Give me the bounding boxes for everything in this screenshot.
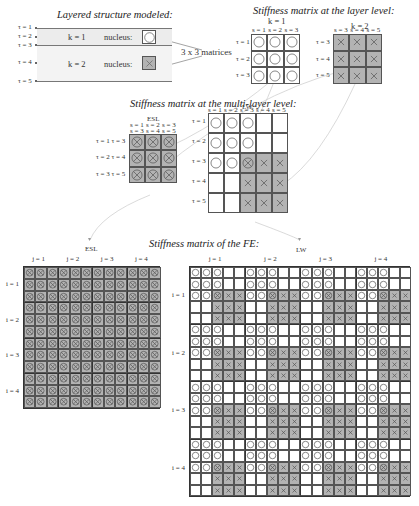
- matrix-cell: [212, 370, 223, 381]
- matrix-cell: [201, 278, 212, 289]
- circle-icon: [301, 463, 310, 472]
- matrix-cell: [389, 485, 400, 496]
- circle-icon: [191, 268, 200, 277]
- matrix-cell: [115, 314, 126, 326]
- cross-icon: [379, 371, 388, 380]
- matrix-cell: [300, 485, 311, 496]
- circle-cross-icon: [59, 303, 68, 312]
- cross-icon: [224, 348, 233, 357]
- cross-icon: [401, 486, 410, 495]
- cross-icon: [279, 486, 288, 495]
- matrix-cell: [267, 450, 278, 461]
- circle-cross-icon: [59, 374, 68, 383]
- circle-cross-icon: [128, 315, 137, 324]
- matrix-cell: [58, 385, 69, 397]
- matrix-cell: [24, 385, 35, 397]
- matrix-cell: [161, 150, 177, 166]
- matrix-cell: [256, 301, 267, 312]
- circle-cross-icon: [162, 168, 176, 182]
- circle-icon: [257, 337, 266, 346]
- matrix-cell: [190, 393, 201, 404]
- matrix-cell: [356, 450, 367, 461]
- column-label: j = 3: [319, 256, 332, 263]
- matrix-cell: [312, 267, 323, 278]
- matrix-cell: [240, 153, 256, 173]
- circle-cross-icon: [105, 362, 114, 371]
- matrix-cell: [400, 485, 411, 496]
- matrix-cell: [208, 153, 224, 173]
- matrix-cell: [267, 34, 283, 51]
- row-label: i = 4: [6, 388, 19, 395]
- circle-cross-icon: [162, 151, 176, 165]
- cross-icon: [334, 52, 348, 66]
- matrix-cell: [256, 153, 272, 173]
- circle-icon: [225, 116, 239, 130]
- circle-icon: [368, 337, 377, 346]
- matrix-cell: [312, 313, 323, 324]
- matrix-cell: [312, 393, 323, 404]
- circle-icon: [313, 383, 322, 392]
- matrix-cell: [251, 67, 267, 84]
- matrix-cell: [367, 416, 378, 427]
- matrix-cell: [400, 416, 411, 427]
- matrix-cell: [356, 359, 367, 370]
- matrix-cell: [190, 404, 201, 415]
- matrix-cell: [300, 427, 311, 438]
- layer-label-k1: k = 1: [68, 33, 86, 42]
- circle-icon: [357, 348, 366, 357]
- matrix-cell: [323, 301, 334, 312]
- matrix-cell: [234, 439, 245, 450]
- circle-icon: [246, 451, 255, 460]
- cross-icon: [390, 406, 399, 415]
- matrix-cell: [92, 291, 103, 303]
- matrix-cell: [345, 485, 356, 496]
- matrix-cell: [334, 439, 345, 450]
- matrix-cell: [289, 393, 300, 404]
- matrix-cell: [367, 267, 378, 278]
- circle-icon: [257, 280, 266, 289]
- cross-icon: [390, 314, 399, 323]
- matrix-cell: [245, 404, 256, 415]
- layered-structure-title: Layered structure modeled:: [57, 9, 173, 20]
- cross-icon: [379, 474, 388, 483]
- circle-icon: [191, 337, 200, 346]
- matrix-cell: [289, 359, 300, 370]
- matrix-cell: [104, 338, 115, 350]
- matrix-cell: [389, 439, 400, 450]
- circle-icon: [213, 337, 222, 346]
- interface-label: τ = 4: [18, 59, 32, 66]
- circle-cross-icon: [59, 280, 68, 289]
- matrix-cell: [278, 427, 289, 438]
- matrix-cell: [70, 385, 81, 397]
- matrix-cell: [367, 336, 378, 347]
- matrix-cell: [201, 313, 212, 324]
- matrix-cell: [356, 485, 367, 496]
- matrix-cell: [58, 267, 69, 279]
- interface-dot: [35, 80, 37, 82]
- circle-icon: [301, 268, 310, 277]
- matrix-cell: [289, 381, 300, 392]
- circle-icon: [268, 325, 277, 334]
- matrix-cell: [92, 314, 103, 326]
- matrix-cell: [312, 473, 323, 484]
- matrix-cell: [256, 450, 267, 461]
- cross-icon: [401, 417, 410, 426]
- matrix-cell: [223, 267, 234, 278]
- matrix-cell: [149, 279, 160, 291]
- matrix-cell: [289, 290, 300, 301]
- circle-icon: [368, 280, 377, 289]
- circle-icon: [202, 280, 211, 289]
- matrix-cell: [367, 439, 378, 450]
- cross-icon: [334, 35, 348, 49]
- cross-icon: [290, 314, 299, 323]
- circle-cross-icon: [25, 303, 34, 312]
- matrix-cell: [345, 473, 356, 484]
- matrix-cell: [267, 393, 278, 404]
- matrix-cell: [70, 396, 81, 408]
- cross-icon: [335, 406, 344, 415]
- circle-cross-icon: [59, 327, 68, 336]
- matrix-cell: [149, 349, 160, 361]
- circle-icon: [202, 348, 211, 357]
- matrix-cell: [367, 473, 378, 484]
- matrix-cell: [256, 133, 272, 153]
